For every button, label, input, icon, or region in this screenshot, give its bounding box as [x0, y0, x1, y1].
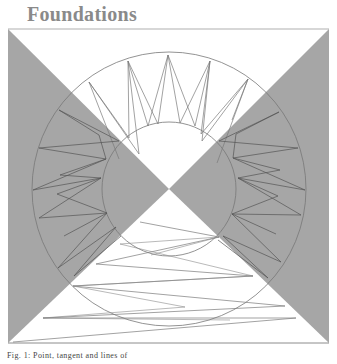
- figure-caption: Fig. 1: Point, tangent and lines of: [7, 351, 128, 361]
- geometric-diagram: [0, 0, 337, 364]
- right-shaded-triangle: [169, 29, 329, 343]
- top-zigzag-secondary: [89, 55, 248, 138]
